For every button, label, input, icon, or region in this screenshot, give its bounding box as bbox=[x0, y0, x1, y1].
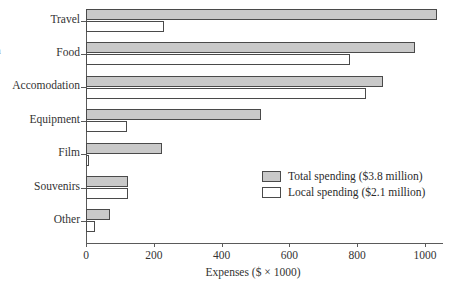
bar-total bbox=[86, 42, 415, 53]
bar-local bbox=[86, 54, 350, 65]
x-tick-label: 600 bbox=[281, 249, 298, 261]
legend-swatch-local-icon bbox=[262, 187, 281, 198]
bar-total bbox=[86, 109, 261, 120]
x-tick-label: 0 bbox=[83, 249, 89, 261]
y-tick-mark bbox=[81, 54, 86, 55]
y-tick-mark bbox=[81, 154, 86, 155]
bar-local bbox=[86, 121, 127, 132]
legend-label-local: Local spending ($2.1 million) bbox=[288, 186, 425, 198]
x-tick-label: 400 bbox=[213, 249, 230, 261]
legend-item-local: Local spending ($2.1 million) bbox=[262, 184, 425, 200]
x-tick-label: 1000 bbox=[414, 249, 437, 261]
y-tick-mark bbox=[81, 121, 86, 122]
x-tick-mark bbox=[425, 243, 426, 247]
bar-local bbox=[86, 155, 89, 166]
y-tick-label-other: Other bbox=[0, 213, 80, 225]
y-tick-mark bbox=[81, 221, 86, 222]
bar-total bbox=[86, 143, 162, 154]
x-axis-title: Expenses ($ × 1000) bbox=[0, 266, 474, 278]
legend-label-total: Total spending ($3.8 million) bbox=[288, 170, 423, 182]
y-tick-label-film: Film bbox=[0, 146, 80, 158]
y-tick-label-food: Food bbox=[0, 46, 80, 58]
y-tick-label-souvenirs: Souvenirs bbox=[0, 180, 80, 192]
bar-local bbox=[86, 21, 164, 32]
bar-total bbox=[86, 9, 437, 20]
bar-total bbox=[86, 76, 383, 87]
y-tick-mark bbox=[81, 21, 86, 22]
y-tick-label-travel: Travel bbox=[0, 13, 80, 25]
x-tick-mark bbox=[154, 243, 155, 247]
expenses-bar-chart: a TravelFoodAccomodationEquipmentFilmSou… bbox=[0, 0, 474, 287]
legend: Total spending ($3.8 million) Local spen… bbox=[262, 168, 425, 200]
bar-local bbox=[86, 221, 95, 232]
y-tick-label-equipment: Equipment bbox=[0, 113, 80, 125]
x-tick-mark bbox=[289, 243, 290, 247]
x-axis-line bbox=[86, 243, 443, 244]
legend-swatch-total-icon bbox=[262, 171, 281, 182]
bar-total bbox=[86, 209, 110, 220]
y-tick-label-accomodation: Accomodation bbox=[0, 79, 80, 91]
bar-total bbox=[86, 176, 128, 187]
bar-local bbox=[86, 88, 366, 99]
x-tick-mark bbox=[357, 243, 358, 247]
x-tick-label: 800 bbox=[349, 249, 366, 261]
x-tick-mark bbox=[222, 243, 223, 247]
legend-item-total: Total spending ($3.8 million) bbox=[262, 168, 425, 184]
x-tick-label: 200 bbox=[145, 249, 162, 261]
bar-local bbox=[86, 188, 128, 199]
y-tick-mark bbox=[81, 87, 86, 88]
y-tick-mark bbox=[81, 188, 86, 189]
x-tick-mark bbox=[86, 243, 87, 247]
x-axis-title-text: Expenses ($ × 1000) bbox=[206, 266, 301, 278]
